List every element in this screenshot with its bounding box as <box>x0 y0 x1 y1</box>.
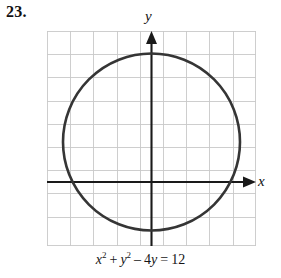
equation-x-exponent: 2 <box>102 250 107 260</box>
equation-caption: x2+y2–4y=12 <box>0 252 281 268</box>
problem-number: 23. <box>6 4 27 20</box>
equation-y-exponent: 2 <box>127 250 132 260</box>
y-axis-arrowhead <box>146 31 157 44</box>
x-axis-label: x <box>258 174 265 189</box>
x-axis-arrowhead <box>243 177 256 188</box>
equation-plus: + <box>109 252 117 267</box>
equation-right-side: 12 <box>171 252 185 267</box>
y-axis-label: y <box>145 9 152 24</box>
equation-y-linear: y <box>151 252 157 267</box>
plot-area: y x <box>47 31 256 246</box>
equation-equals: = <box>160 252 168 267</box>
equation-minus: – <box>134 252 141 267</box>
figure-container: 23. <box>0 0 281 278</box>
graph-svg <box>47 31 256 246</box>
